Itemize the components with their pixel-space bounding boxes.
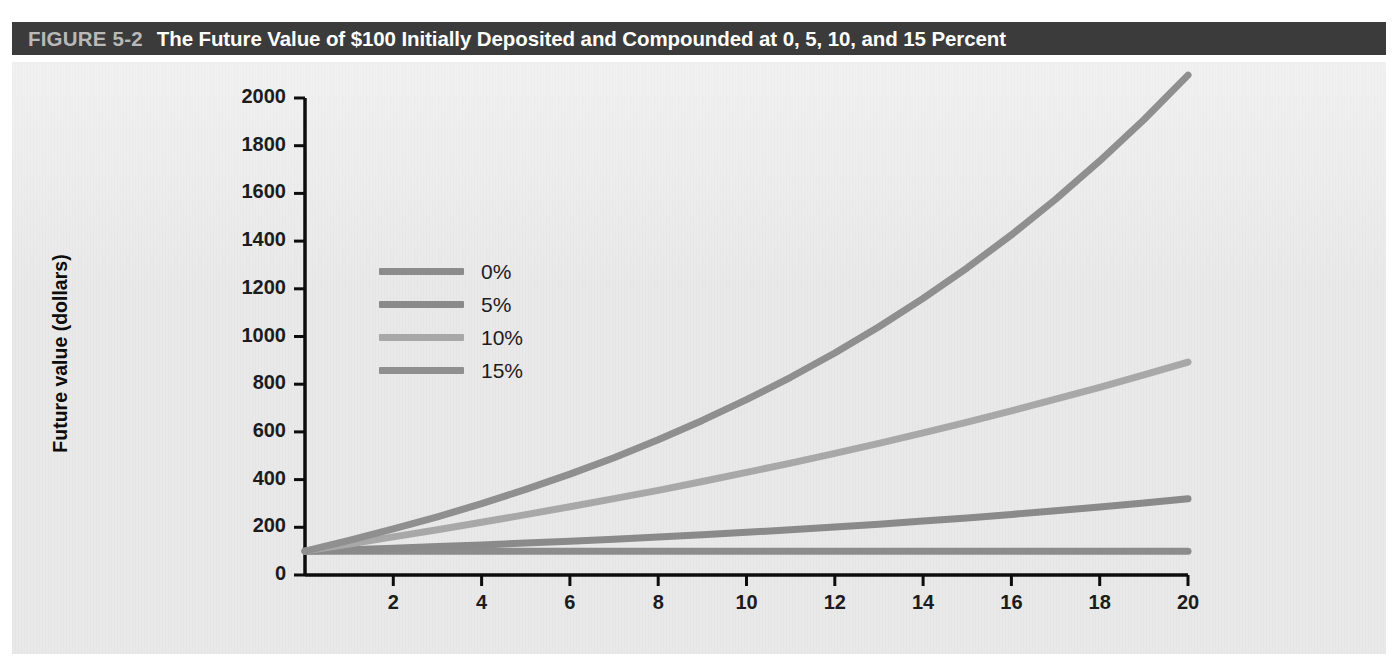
figure-plate: 0200400600800100012001400160018002000 24… — [12, 62, 1386, 654]
figure-number: FIGURE 5-2 — [28, 27, 143, 51]
y-tick-label: 400 — [212, 467, 286, 490]
series-line-5 — [305, 499, 1188, 551]
y-tick-label: 1600 — [212, 180, 286, 203]
x-tick-label: 12 — [810, 591, 860, 614]
x-tick-label: 10 — [722, 591, 772, 614]
y-tick-label: 0 — [212, 562, 286, 585]
legend-row: 10% — [379, 321, 523, 354]
figure-container: FIGURE 5-2 The Future Value of $100 Init… — [0, 0, 1398, 667]
x-tick-label: 2 — [368, 591, 418, 614]
y-tick-label: 800 — [212, 371, 286, 394]
x-tick-label: 16 — [986, 591, 1036, 614]
series-line-10 — [305, 362, 1188, 551]
y-tick-label: 1200 — [212, 276, 286, 299]
x-tick-label: 4 — [457, 591, 507, 614]
legend-label: 5% — [481, 294, 511, 315]
x-tick-label: 18 — [1075, 591, 1125, 614]
legend-swatch-icon — [379, 367, 464, 374]
legend-swatch-icon — [379, 334, 464, 341]
legend-row: 15% — [379, 354, 523, 387]
figure-title-bar: FIGURE 5-2 The Future Value of $100 Init… — [12, 22, 1386, 55]
legend-swatch-icon — [379, 268, 464, 275]
figure-title: The Future Value of $100 Initially Depos… — [157, 27, 1006, 51]
x-tick-label: 20 — [1163, 591, 1213, 614]
x-tick-label: 8 — [633, 591, 683, 614]
y-axis-title: Future value (dollars) — [49, 244, 72, 464]
legend-label: 15% — [481, 360, 523, 381]
legend-label: 10% — [481, 327, 523, 348]
y-tick-label: 600 — [212, 419, 286, 442]
legend-label: 0% — [481, 261, 511, 282]
x-tick-label: 14 — [898, 591, 948, 614]
legend-row: 5% — [379, 288, 523, 321]
y-tick-label: 1000 — [212, 324, 286, 347]
y-tick-label: 1400 — [212, 228, 286, 251]
legend-row: 0% — [379, 255, 523, 288]
y-tick-label: 200 — [212, 514, 286, 537]
legend-swatch-icon — [379, 301, 464, 308]
y-tick-label: 2000 — [212, 85, 286, 108]
chart-legend: 0%5%10%15% — [379, 255, 523, 387]
x-tick-label: 6 — [545, 591, 595, 614]
y-tick-label: 1800 — [212, 133, 286, 156]
